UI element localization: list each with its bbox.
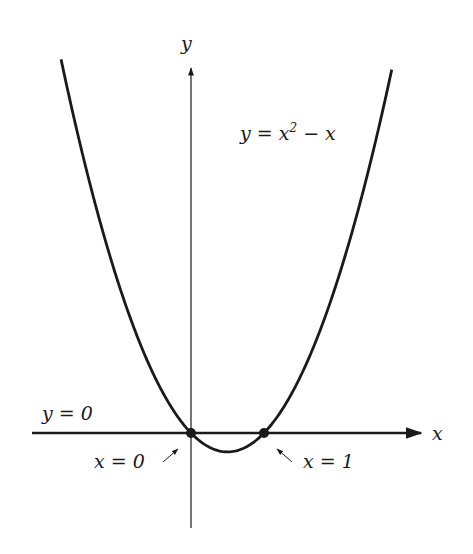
curve-equation-label: y = x2 − x <box>240 122 336 143</box>
y-axis-label: y <box>181 34 192 53</box>
root-point-x1 <box>259 428 269 438</box>
arrow-to-x0-icon <box>163 449 178 462</box>
y-zero-label: y = 0 <box>42 404 93 423</box>
x-one-label: x = 1 <box>303 452 354 471</box>
x-axis-label: x <box>432 424 443 443</box>
equation-lhs: y = x <box>240 122 289 144</box>
chart-canvas <box>0 0 473 554</box>
equation-rhs: − x <box>297 122 336 144</box>
equation-exponent: 2 <box>289 121 297 135</box>
arrow-to-x1-icon <box>277 449 292 462</box>
x-zero-label: x = 0 <box>94 452 145 471</box>
root-point-x0 <box>186 428 196 438</box>
parabola-curve <box>61 59 392 451</box>
